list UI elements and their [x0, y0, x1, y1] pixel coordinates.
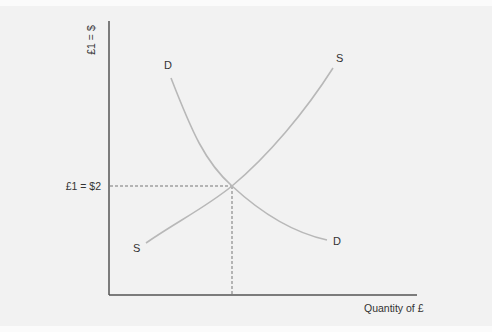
demand-label-top: D: [164, 59, 172, 71]
supply-demand-chart: D D S S £1 = $2 Quantity of £ £1 = $: [0, 0, 492, 332]
x-axis-label: Quantity of £: [364, 302, 424, 314]
demand-label-bottom: D: [333, 235, 341, 247]
supply-label-top: S: [336, 52, 343, 64]
y-axis-label: £1 = $: [85, 25, 97, 55]
demand-curve: [171, 78, 327, 240]
supply-label-bottom: S: [133, 242, 140, 254]
supply-curve: [146, 68, 333, 243]
equilibrium-price-label: £1 = $2: [66, 180, 101, 192]
